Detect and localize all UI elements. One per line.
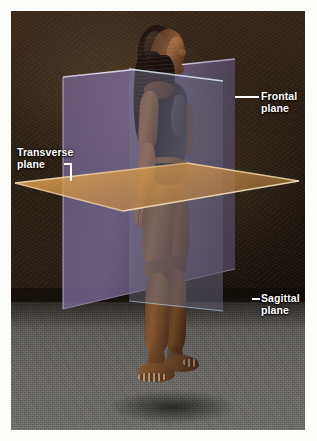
transverse-plane-label-line1: Transverse	[17, 146, 73, 158]
frontal-plane-label: Frontal plane	[261, 90, 297, 114]
body-planes-figure: Frontal plane Transverse plane Sagittal …	[0, 0, 317, 441]
transverse-plane-surface	[15, 163, 299, 211]
transverse-plane	[11, 11, 305, 430]
frontal-plane-label-line2: plane	[261, 102, 297, 114]
sagittal-plane-label-line1: Sagittal	[261, 292, 300, 304]
sagittal-plane-leader-line	[252, 298, 260, 300]
sagittal-plane-label: Sagittal plane	[261, 292, 300, 316]
frontal-plane-label-line1: Frontal	[261, 90, 297, 102]
sagittal-plane-label-line2: plane	[261, 304, 300, 316]
photograph: Frontal plane Transverse plane Sagittal …	[11, 11, 305, 430]
transverse-plane-label-line2: plane	[17, 158, 73, 170]
transverse-plane-label: Transverse plane	[17, 146, 73, 170]
frontal-plane-leader-line	[235, 96, 259, 98]
